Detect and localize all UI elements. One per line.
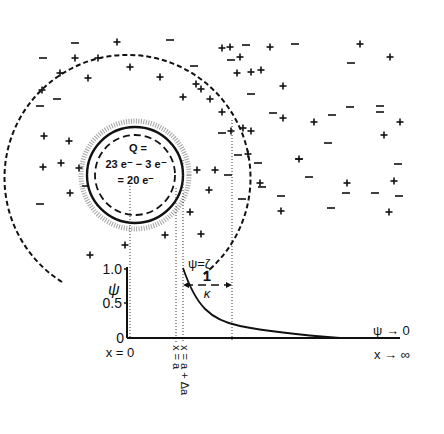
plus-ion-icon [187,209,194,216]
plus-ion-icon [76,165,83,172]
plus-ion-icon [127,64,134,71]
plus-ion-icon [212,167,219,174]
plus-ion-icon [248,128,255,135]
plus-ion-icon [114,39,121,46]
plus-ion-icon [344,180,351,187]
plus-ion-icon [280,115,287,122]
plus-ion-icon [397,119,404,126]
plus-ion-icon [227,44,234,51]
arrow-left-icon [183,282,189,288]
plus-ion-icon [194,167,201,174]
y-axis-label: ψ [108,281,120,298]
x-origin-label: x = 0 [106,345,135,360]
plus-ion-icon [198,86,205,93]
psi-limit-label: ψ → 0 [373,323,410,338]
plus-ion-icon [41,133,48,140]
potential-graph: 1.0 0.5 0 ψ 1 κ ψ=ζ ψ → 0 x → ∞ x = 0 x … [103,256,410,396]
plus-ion-icon [67,190,74,197]
plus-ion-icon [87,252,94,259]
plus-ion-icon [237,54,244,61]
plus-ion-icon [219,45,226,52]
plus-ion-icon [228,128,235,135]
plus-ion-icon [206,187,213,194]
zeta-potential-label: ψ=ζ [188,256,211,271]
plus-ion-icon [234,70,241,77]
charged-particle: Q = 23 e⁻ − 3 e⁻ = 20 e⁻ [81,121,189,229]
charge-line-1: 23 e⁻ − 3 e⁻ [105,158,166,170]
plus-ion-icon [85,75,92,82]
x-limit-label: x → ∞ [374,347,410,362]
plus-ion-icon [66,138,73,145]
plus-ion-icon [207,96,214,103]
arrow-right-icon [226,282,232,288]
plus-ion-icon [278,208,285,215]
plus-ion-icon [40,164,47,171]
plus-ion-icon [357,41,364,48]
plus-ion-icon [162,232,169,239]
y-tick-label-0: 0 [116,330,124,346]
plus-ion-icon [391,178,398,185]
positive-ions [39,39,404,259]
charge-label: Q = [129,142,147,154]
plus-ion-icon [72,55,79,62]
debye-label-denominator: κ [204,286,212,301]
plus-ion-icon [157,74,164,81]
plus-ion-icon [386,209,393,216]
y-tick-label-1: 1.0 [103,261,123,277]
plus-ion-icon [180,94,187,101]
plus-ion-icon [257,180,264,187]
plus-ion-icon [248,69,255,76]
plus-ion-icon [381,132,388,139]
plus-ion-icon [198,231,205,238]
plus-ion-icon [193,81,200,88]
x-a-plus-da-label: x = a + Δa [179,345,191,396]
electric-double-layer-diagram: Q = 23 e⁻ − 3 e⁻ = 20 e⁻ 1.0 0.5 0 ψ 1 κ… [0,0,444,434]
plus-ion-icon [122,242,129,249]
plus-ion-icon [267,44,274,51]
plus-ion-icon [58,160,65,167]
charge-line-2: = 20 e⁻ [118,174,155,186]
plus-ion-icon [219,109,226,116]
plus-ion-icon [387,54,394,61]
plus-ion-icon [280,83,287,90]
plus-ion-icon [311,119,318,126]
plus-ion-icon [258,67,265,74]
